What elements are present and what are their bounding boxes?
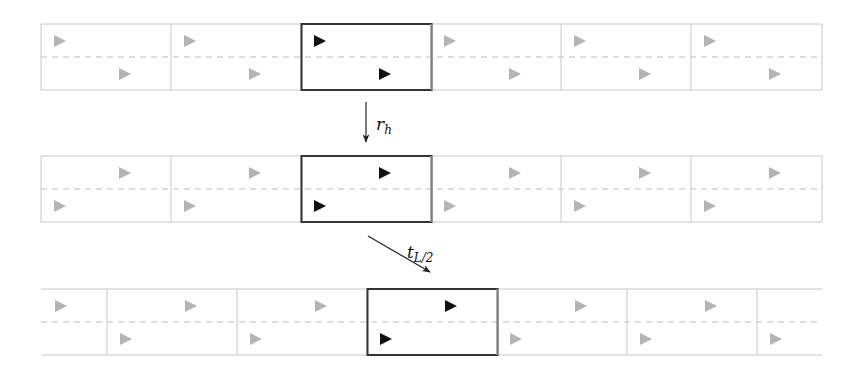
triangle-bottom bbox=[769, 68, 781, 80]
triangle-bottom bbox=[119, 68, 131, 80]
triangle-top bbox=[705, 300, 717, 312]
triangle-top bbox=[509, 167, 521, 179]
triangle-top bbox=[575, 300, 587, 312]
triangle-top bbox=[315, 300, 327, 312]
triangle-bottom bbox=[54, 200, 66, 212]
triangle-bottom bbox=[249, 68, 261, 80]
reflected-strip bbox=[41, 156, 822, 222]
translated-strip bbox=[41, 289, 822, 355]
triangle-bottom bbox=[250, 333, 262, 345]
transform-arrows: rhtL/2 bbox=[366, 102, 434, 272]
triangle-top bbox=[185, 300, 197, 312]
triangle-top bbox=[704, 35, 716, 47]
triangle-top bbox=[55, 300, 67, 312]
arrow-label: rh bbox=[376, 114, 392, 137]
triangle-top bbox=[249, 167, 261, 179]
highlight-triangle-top bbox=[314, 35, 326, 47]
highlight-triangle-bottom bbox=[379, 68, 391, 80]
highlight-triangle-top bbox=[445, 300, 457, 312]
triangle-bottom bbox=[639, 68, 651, 80]
triangle-bottom bbox=[120, 333, 132, 345]
triangle-top bbox=[444, 35, 456, 47]
triangle-bottom bbox=[704, 200, 716, 212]
triangle-top bbox=[184, 35, 196, 47]
triangle-bottom bbox=[510, 333, 522, 345]
triangle-top bbox=[54, 35, 66, 47]
triangle-bottom bbox=[509, 68, 521, 80]
reflection-arrow: rh bbox=[366, 102, 392, 142]
triangle-top bbox=[639, 167, 651, 179]
glide-reflection-diagram: rhtL/2 bbox=[0, 0, 860, 375]
highlight-triangle-bottom bbox=[380, 333, 392, 345]
triangle-top bbox=[574, 35, 586, 47]
triangle-top bbox=[119, 167, 131, 179]
strips bbox=[41, 24, 822, 355]
original-strip bbox=[41, 24, 822, 90]
triangle-bottom bbox=[184, 200, 196, 212]
translation-arrow: tL/2 bbox=[368, 236, 434, 272]
triangle-bottom bbox=[770, 333, 782, 345]
triangle-bottom bbox=[640, 333, 652, 345]
triangle-bottom bbox=[444, 200, 456, 212]
highlight-triangle-top bbox=[379, 167, 391, 179]
highlight-triangle-bottom bbox=[314, 200, 326, 212]
triangle-bottom bbox=[574, 200, 586, 212]
triangle-top bbox=[769, 167, 781, 179]
arrow-label: tL/2 bbox=[407, 242, 434, 265]
